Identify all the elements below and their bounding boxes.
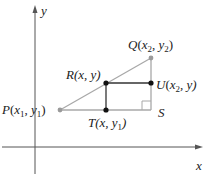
label-r: R(x, y): [65, 67, 101, 82]
y-axis-arrow-icon: [33, 5, 38, 13]
label-s: S: [158, 105, 165, 120]
right-angle-marker-icon: [142, 101, 151, 110]
point-u: [148, 80, 153, 85]
point-r: [103, 80, 108, 85]
label-t: T(x, y1): [88, 115, 126, 132]
y-axis-label: y: [39, 3, 47, 18]
label-q: Q(x2, y2): [128, 37, 173, 54]
diagram-canvas: y x Q(x2, y2) R(x, y) U(x2, y) P(x1, y1)…: [0, 0, 207, 182]
coordinate-diagram: y x Q(x2, y2) R(x, y) U(x2, y) P(x1, y1)…: [0, 0, 207, 182]
x-axis-arrow-icon: [195, 145, 203, 150]
label-u: U(x2, y): [156, 77, 197, 94]
point-q: [149, 56, 154, 61]
x-axis-label: x: [195, 158, 202, 173]
point-p: [58, 108, 63, 113]
point-t: [103, 107, 108, 112]
label-p: P(x1, y1): [1, 102, 46, 119]
